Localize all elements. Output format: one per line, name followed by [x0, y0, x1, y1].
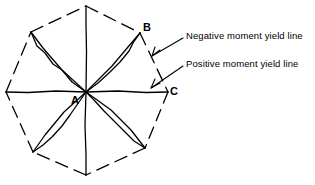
vertex-label-c: C	[170, 86, 178, 97]
callout-leader-lines	[151, 38, 183, 88]
vertex-label-a: A	[71, 95, 79, 106]
vertex-label-b: B	[143, 22, 151, 33]
callout-label-positive-moment-yield-line: Positive moment yield line	[186, 59, 298, 69]
radial-line-to-right	[86, 91, 168, 93]
perimeter-edge-top-right	[86, 6, 140, 33]
radial-line-to-upper-right	[86, 33, 140, 92]
perimeter-edge-left-upper	[6, 32, 31, 92]
radial-line-to-bottom	[85, 92, 86, 175]
callout-label-negative-moment-yield-line: Negative moment yield line	[186, 31, 303, 41]
figure-drawing	[0, 0, 315, 185]
leader-arrowhead-negative	[152, 47, 160, 56]
radial-line-to-left	[6, 91, 86, 93]
perimeter-edge-bottom-left	[33, 152, 86, 175]
perimeter-edge-left-lower	[6, 92, 33, 152]
perimeter-edge-bottom-right	[86, 148, 145, 175]
radial-line-to-top	[86, 6, 87, 92]
perimeter-edge-right-lower	[145, 92, 168, 148]
leader-line-positive	[151, 66, 183, 88]
chord-lower-right-to-center	[86, 92, 145, 148]
leader-line-negative	[152, 38, 183, 56]
perimeter-edge-top-left	[31, 6, 86, 32]
perimeter-edge-right-upper	[140, 33, 168, 92]
yield-line-figure: A B C Negative moment yield line Positiv…	[0, 0, 315, 185]
radial-line-to-upper-left	[31, 32, 86, 92]
leader-arrowhead-positive	[151, 79, 160, 88]
chord-upper-left-to-center	[31, 32, 86, 92]
